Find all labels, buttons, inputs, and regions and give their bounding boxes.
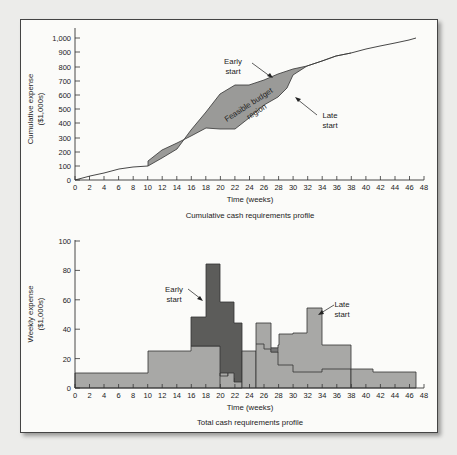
svg-text:10: 10 xyxy=(144,391,152,400)
svg-text:8: 8 xyxy=(131,391,135,400)
svg-text:40: 40 xyxy=(362,391,370,400)
svg-text:48: 48 xyxy=(420,391,428,400)
bottom-y-axis-label-units: ($1,000s) xyxy=(36,297,45,330)
bottom-x-axis-label: Time (weeks) xyxy=(227,403,274,412)
svg-text:40: 40 xyxy=(362,183,370,192)
svg-text:100: 100 xyxy=(58,237,71,246)
svg-text:16: 16 xyxy=(187,183,195,192)
svg-text:80: 80 xyxy=(63,266,71,275)
svg-text:1,000: 1,000 xyxy=(52,34,71,43)
svg-text:8: 8 xyxy=(131,183,135,192)
svg-text:900: 900 xyxy=(58,48,71,57)
svg-text:26: 26 xyxy=(260,183,268,192)
svg-text:300: 300 xyxy=(58,134,71,143)
bottom-caption: Total cash requirements profile xyxy=(197,418,303,427)
bottom-late-label-2: start xyxy=(334,310,350,319)
svg-text:20: 20 xyxy=(63,355,71,364)
mid-steps-a xyxy=(242,351,256,388)
bottom-late-arrow xyxy=(321,305,334,313)
svg-text:22: 22 xyxy=(231,391,239,400)
svg-text:12: 12 xyxy=(158,183,166,192)
top-late-arrow xyxy=(297,99,317,115)
svg-text:6: 6 xyxy=(117,183,121,192)
svg-text:44: 44 xyxy=(391,183,399,192)
svg-text:26: 26 xyxy=(260,391,268,400)
svg-text:0: 0 xyxy=(67,176,71,185)
svg-text:32: 32 xyxy=(304,183,312,192)
svg-text:500: 500 xyxy=(58,105,71,114)
charts-svg: 0246810121416182022242628303234363840424… xyxy=(0,0,457,455)
svg-text:36: 36 xyxy=(333,391,341,400)
svg-text:14: 14 xyxy=(173,183,181,192)
top-late-label-2: start xyxy=(322,121,338,130)
svg-text:24: 24 xyxy=(245,183,253,192)
svg-text:34: 34 xyxy=(318,391,326,400)
bottom-early-label-2: start xyxy=(166,295,182,304)
svg-text:30: 30 xyxy=(289,183,297,192)
top-y-axis-label-units: ($1,000s) xyxy=(36,92,45,125)
svg-text:100: 100 xyxy=(58,162,71,171)
svg-text:14: 14 xyxy=(173,391,181,400)
svg-text:42: 42 xyxy=(376,183,384,192)
svg-text:12: 12 xyxy=(158,391,166,400)
svg-text:20: 20 xyxy=(216,391,224,400)
svg-text:16: 16 xyxy=(187,391,195,400)
svg-text:60: 60 xyxy=(63,296,71,305)
svg-text:44: 44 xyxy=(391,391,399,400)
bottom-late-label: Late xyxy=(334,300,349,309)
svg-text:800: 800 xyxy=(58,63,71,72)
svg-text:28: 28 xyxy=(274,391,282,400)
svg-text:2: 2 xyxy=(87,391,91,400)
overlap-small xyxy=(271,348,278,352)
svg-text:28: 28 xyxy=(274,183,282,192)
bottom-early-label: Early xyxy=(165,285,183,294)
svg-text:48: 48 xyxy=(420,183,428,192)
bottom-chart: 0246810121416182022242628303234363840424… xyxy=(26,237,428,427)
mid-steps-b xyxy=(256,308,351,388)
svg-text:10: 10 xyxy=(144,183,152,192)
svg-text:200: 200 xyxy=(58,148,71,157)
svg-text:32: 32 xyxy=(304,391,312,400)
top-chart: 0246810121416182022242628303234363840424… xyxy=(26,28,428,220)
cumulative-line xyxy=(75,166,148,180)
bottom-y-tick-labels: 020406080100 xyxy=(58,237,71,393)
top-x-axis-label: Time (weeks) xyxy=(227,195,274,204)
svg-text:2: 2 xyxy=(87,183,91,192)
svg-text:0: 0 xyxy=(67,384,71,393)
top-y-tick-labels: 01002003004005006007008009001,000 xyxy=(52,34,71,185)
svg-text:42: 42 xyxy=(376,391,384,400)
cumulative-line-tail xyxy=(351,38,416,53)
svg-text:400: 400 xyxy=(58,119,71,128)
top-early-label-2: start xyxy=(225,67,241,76)
svg-text:46: 46 xyxy=(405,183,413,192)
svg-text:0: 0 xyxy=(73,391,77,400)
svg-text:4: 4 xyxy=(102,183,106,192)
bottom-x-tick-labels: 0246810121416182022242628303234363840424… xyxy=(73,391,428,400)
svg-text:34: 34 xyxy=(318,183,326,192)
svg-text:600: 600 xyxy=(58,91,71,100)
top-x-ticks xyxy=(75,176,424,180)
top-late-label: Late xyxy=(322,111,337,120)
svg-text:18: 18 xyxy=(202,391,210,400)
svg-text:38: 38 xyxy=(347,183,355,192)
svg-text:22: 22 xyxy=(231,183,239,192)
top-caption: Cumulative cash requirements profile xyxy=(186,211,315,220)
svg-text:36: 36 xyxy=(333,183,341,192)
svg-text:30: 30 xyxy=(289,391,297,400)
top-x-tick-labels: 0246810121416182022242628303234363840424… xyxy=(73,183,428,192)
svg-text:700: 700 xyxy=(58,77,71,86)
early-start-steps-light xyxy=(75,346,234,388)
svg-text:0: 0 xyxy=(73,183,77,192)
svg-text:40: 40 xyxy=(63,325,71,334)
svg-text:6: 6 xyxy=(117,391,121,400)
top-y-ticks xyxy=(75,38,80,180)
svg-text:18: 18 xyxy=(202,183,210,192)
tail-steps xyxy=(351,369,416,388)
top-y-axis-label: Cumulative expense xyxy=(26,74,35,145)
bottom-y-axis-label: Weekly expense xyxy=(26,285,35,342)
bottom-y-ticks xyxy=(75,241,80,388)
svg-text:20: 20 xyxy=(216,183,224,192)
svg-text:24: 24 xyxy=(245,391,253,400)
svg-text:38: 38 xyxy=(347,391,355,400)
svg-text:46: 46 xyxy=(405,391,413,400)
